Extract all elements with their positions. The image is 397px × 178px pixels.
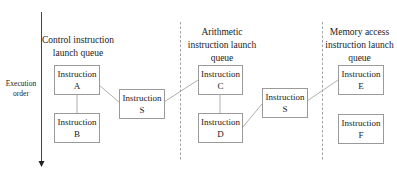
box-id: S: [282, 103, 287, 116]
box-id: B: [74, 128, 80, 141]
instruction-box-s1: Instruction S: [119, 89, 165, 119]
box-label: Instruction: [201, 116, 240, 129]
box-label: Instruction: [123, 92, 162, 105]
queue-title-line: queue: [322, 52, 397, 65]
box-label: Instruction: [58, 116, 97, 129]
execution-order-label: Execution order: [2, 79, 40, 99]
box-id: E: [358, 80, 364, 93]
axis-label-line2: order: [2, 89, 40, 99]
link-a-s1: [99, 85, 119, 102]
box-label: Instruction: [266, 91, 305, 104]
link-s2-e: [307, 80, 338, 101]
box-id: F: [358, 129, 363, 142]
instruction-box-f: Instruction F: [338, 114, 384, 144]
box-id: C: [217, 80, 223, 93]
queue-title-line: launch queue: [40, 47, 116, 60]
arrow-down-icon: [39, 161, 45, 167]
queue-title-memory: Memory access instruction launch queue: [322, 26, 397, 65]
instruction-box-d: Instruction D: [198, 113, 243, 143]
instruction-box-e: Instruction E: [338, 65, 384, 95]
queue-title-line: Memory access: [322, 26, 397, 39]
queue-title-line: Control instruction: [40, 34, 116, 47]
instruction-box-b: Instruction B: [54, 113, 100, 143]
queue-title-arithmetic: Arithmetic instruction launch queue: [182, 26, 262, 65]
queue-title-line: instruction launch: [182, 39, 262, 52]
box-label: Instruction: [342, 117, 381, 130]
queue-title-line: queue: [182, 52, 262, 65]
link-d-s2: [242, 104, 262, 128]
box-label: Instruction: [342, 68, 381, 81]
instruction-box-s2: Instruction S: [262, 88, 308, 118]
queue-title-line: instruction launch: [322, 39, 397, 52]
box-label: Instruction: [58, 68, 97, 81]
instruction-box-a: Instruction A: [54, 65, 100, 95]
box-id: D: [217, 128, 224, 141]
box-id: A: [74, 80, 81, 93]
axis-label-line1: Execution: [2, 79, 40, 89]
queue-title-line: Arithmetic: [182, 26, 262, 39]
box-label: Instruction: [201, 68, 240, 81]
instruction-box-c: Instruction C: [198, 65, 243, 95]
queue-title-control: Control instruction launch queue: [40, 34, 116, 60]
box-id: S: [139, 104, 144, 117]
link-s1-c: [164, 80, 198, 102]
